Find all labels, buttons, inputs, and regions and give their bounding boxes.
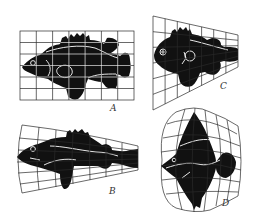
fish-a-silhouette	[22, 33, 131, 99]
panel-c	[153, 16, 238, 110]
panel-label-c: C	[220, 82, 227, 91]
panel-label-d: D	[222, 199, 229, 208]
panel-a	[20, 31, 134, 100]
panel-label-b: B	[109, 187, 116, 196]
panel-b	[17, 125, 138, 193]
figure-canvas	[0, 0, 258, 221]
panel-d	[161, 108, 241, 212]
panel-label-a: A	[110, 104, 117, 113]
fish-transformation-figure: A B C D	[0, 0, 258, 221]
